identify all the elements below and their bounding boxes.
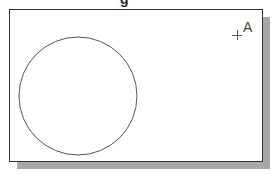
point-marker-icon [232, 30, 242, 40]
drawing-canvas [0, 0, 273, 174]
circle-shape [19, 37, 137, 155]
point-label: A [243, 19, 252, 35]
